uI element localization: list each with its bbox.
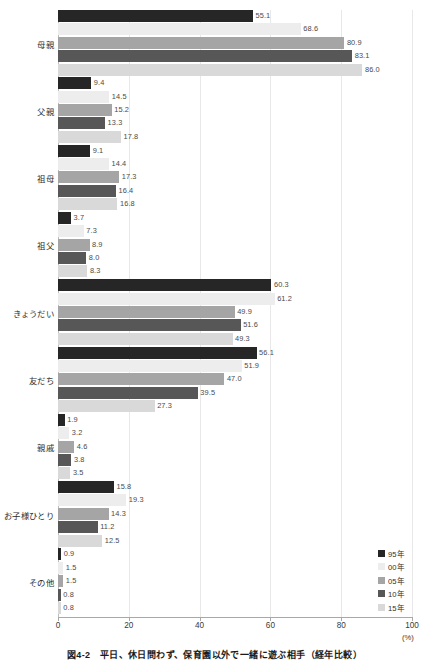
bar-row: 55.1 [58,10,412,22]
bar-10年-父親 [58,117,105,129]
bar-row: 49.9 [58,306,412,318]
bar-15年-きょうだい [58,333,233,345]
bar-value-label: 14.3 [111,507,126,520]
bar-row: 1.9 [58,414,412,426]
bar-value-label: 9.4 [94,76,105,89]
x-tick-mark-0 [58,617,59,621]
x-tick-mark-20 [129,617,130,621]
legend-item-05年[interactable]: 05年 [378,575,405,586]
bar-15年-親戚 [58,467,70,479]
bar-row: 56.1 [58,347,412,359]
bar-00年-友だち [58,360,242,372]
bar-value-label: 16.4 [119,184,134,197]
bar-value-label: 1.5 [66,574,77,587]
bar-row: 14.4 [58,158,412,170]
bar-05年-友だち [58,373,224,385]
bar-value-label: 9.1 [93,144,104,157]
bar-value-label: 14.5 [112,90,127,103]
bar-15年-母親 [58,64,362,76]
bar-value-label: 1.5 [66,561,77,574]
legend-item-00年[interactable]: 00年 [378,561,405,572]
bar-row: 8.9 [58,239,412,251]
bar-95年-母親 [58,10,253,22]
bar-10年-その他 [58,589,61,601]
x-tick-mark-100 [412,617,413,621]
x-tick-label-0: 0 [56,621,61,630]
bar-row: 16.4 [58,185,412,197]
bar-value-label: 0.8 [63,588,74,601]
bar-row: 8.0 [58,252,412,264]
bar-value-label: 3.5 [73,466,84,479]
category-label-母親: 母親 [0,38,54,50]
bar-15年-祖父 [58,265,87,277]
bar-00年-親戚 [58,427,69,439]
bar-value-label: 49.9 [237,305,252,318]
bar-row: 3.7 [58,212,412,224]
bar-row: 68.6 [58,23,412,35]
bar-value-label: 60.3 [274,278,289,291]
legend-item-95年[interactable]: 95年 [378,548,405,559]
bar-value-label: 39.5 [200,386,215,399]
bar-00年-お子様ひとり [58,494,126,506]
bar-row: 14.3 [58,508,412,520]
bar-05年-祖父 [58,239,90,251]
x-tick-label-80: 80 [337,621,346,630]
bar-value-label: 27.3 [157,399,172,412]
bar-00年-母親 [58,23,301,35]
bar-05年-母親 [58,37,344,49]
bar-value-label: 15.8 [116,480,131,493]
bar-value-label: 83.1 [355,49,370,62]
bar-15年-父親 [58,131,121,143]
x-tick-label-100: 100 [405,621,419,630]
bar-value-label: 4.6 [77,440,88,453]
bar-row: 49.3 [58,333,412,345]
bar-value-label: 0.9 [64,547,75,560]
bar-95年-祖父 [58,212,71,224]
bar-05年-父親 [58,104,112,116]
bar-group: 3.77.38.98.08.3 [58,212,412,279]
bar-row: 1.5 [58,575,412,587]
bar-row: 9.4 [58,77,412,89]
bar-row: 7.3 [58,225,412,237]
bar-value-label: 0.8 [63,601,74,614]
gridline-100 [412,10,413,617]
legend-swatch-icon [378,577,385,584]
bar-group: 55.168.680.983.186.0 [58,10,412,77]
legend-item-10年[interactable]: 10年 [378,588,405,599]
bar-group: 15.819.314.311.212.5 [58,481,412,548]
bar-10年-親戚 [58,454,71,466]
bar-95年-友だち [58,347,257,359]
bar-row: 16.8 [58,198,412,210]
bar-row: 0.9 [58,548,412,560]
bar-10年-母親 [58,50,352,62]
bar-00年-祖母 [58,158,109,170]
bar-group: 60.361.249.951.649.3 [58,279,412,346]
legend-swatch-icon [378,563,385,570]
legend-label: 10年 [388,588,405,599]
bar-row: 47.0 [58,373,412,385]
bar-row: 11.2 [58,521,412,533]
bar-group: 56.151.947.039.527.3 [58,347,412,414]
bar-row: 9.1 [58,145,412,157]
bar-row: 1.5 [58,562,412,574]
plot-area: 55.168.680.983.186.09.414.515.213.317.89… [58,10,412,617]
x-axis-line [58,617,413,618]
x-axis-unit-label: (%) [402,633,414,642]
bar-row: 14.5 [58,91,412,103]
bar-05年-その他 [58,575,63,587]
bar-value-label: 8.9 [92,238,103,251]
category-label-親戚: 親戚 [0,441,54,453]
bar-value-label: 16.8 [120,197,135,210]
category-label-きょうだい: きょうだい [0,307,54,319]
x-tick-label-60: 60 [266,621,275,630]
bar-10年-祖母 [58,185,116,197]
bar-value-label: 51.9 [244,359,259,372]
bar-95年-父親 [58,77,91,89]
category-label-その他: その他 [0,576,54,588]
bar-row: 83.1 [58,50,412,62]
legend-item-15年[interactable]: 15年 [378,602,405,613]
bar-00年-父親 [58,91,109,103]
bar-95年-親戚 [58,414,65,426]
category-label-友だち: 友だち [0,374,54,386]
